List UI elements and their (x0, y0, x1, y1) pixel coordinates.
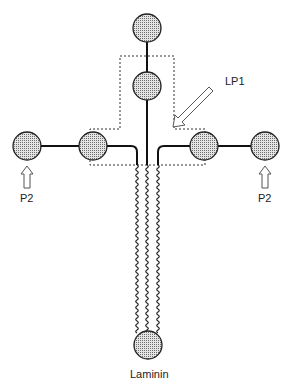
node-right-outer (251, 132, 279, 160)
node-left-inner (79, 132, 107, 160)
laminin-label: Laminin (130, 368, 169, 380)
node-laminin (134, 331, 162, 359)
node-left-outer (13, 132, 41, 160)
lp1-arrow-icon (173, 87, 213, 127)
laminin-diagram: LP1 P2 P2 Laminin (0, 0, 293, 386)
p2-right-arrow-icon (259, 166, 271, 188)
p2-left-arrow-icon (21, 166, 33, 188)
coiled-coil-domain (136, 165, 160, 333)
node-upper (133, 72, 161, 100)
p2-right-label: P2 (258, 192, 271, 204)
lp1-label: LP1 (225, 75, 245, 87)
node-right-inner (190, 132, 218, 160)
node-top (133, 14, 161, 42)
p2-left-label: P2 (20, 192, 33, 204)
